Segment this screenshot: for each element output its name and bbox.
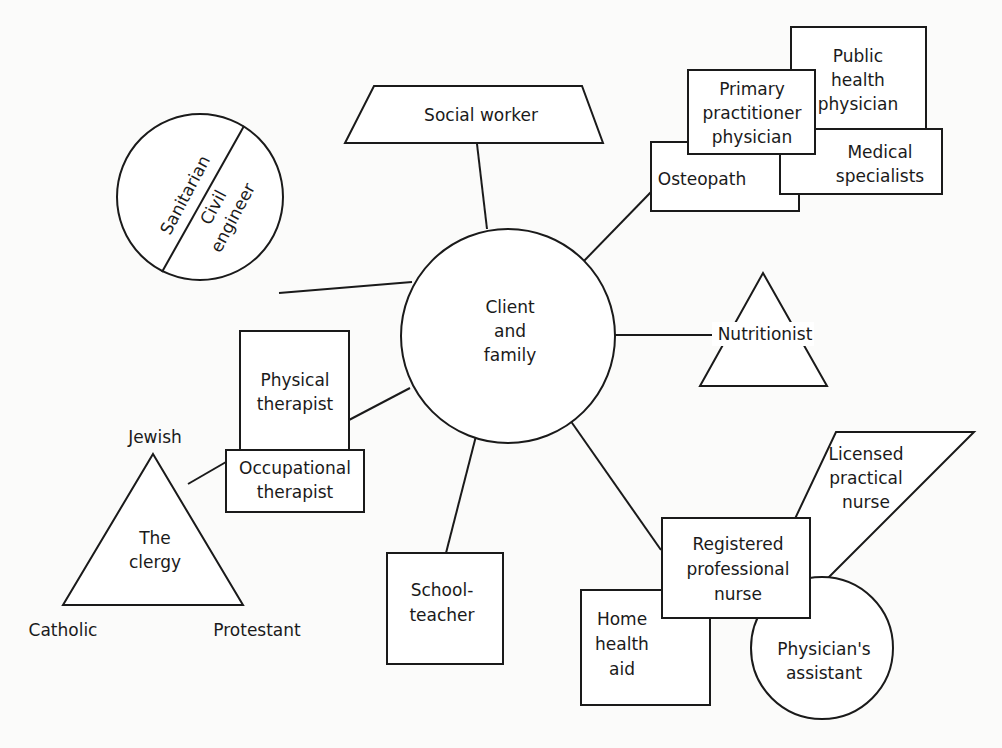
label-licensed: Licensed	[829, 444, 904, 464]
physical-therapist-box	[240, 331, 349, 450]
label-physicians: Physician's	[777, 639, 871, 659]
label-social-worker: Social worker	[424, 105, 538, 125]
label-physical: Physical	[260, 370, 329, 390]
label-medical: Medical	[847, 142, 912, 162]
therapist-group-node: Physical therapist Occupational therapis…	[226, 331, 364, 512]
label-health: health	[831, 70, 885, 90]
label-family: family	[484, 345, 536, 365]
connector-osteopath	[582, 192, 651, 263]
label-occupational: Occupational	[239, 458, 351, 478]
vertex-label-catholic: Catholic	[29, 620, 98, 640]
label-home: Home	[597, 609, 647, 629]
nutritionist-node: Nutritionist	[700, 273, 827, 386]
label-health-2: health	[595, 634, 649, 654]
label-and: and	[494, 321, 526, 341]
label-registered: Registered	[693, 534, 784, 554]
label-aid: aid	[609, 659, 635, 679]
label-assistant: assistant	[786, 663, 863, 683]
connector-physical-therapist	[349, 388, 410, 420]
vertex-label-protestant: Protestant	[213, 620, 301, 640]
connector-clergy	[188, 462, 226, 484]
connector-sanitarian	[279, 282, 412, 293]
label-nurse: nurse	[842, 492, 890, 512]
label-physician-2: physician	[712, 127, 792, 147]
label-therapist-2: therapist	[257, 482, 334, 502]
label-the: The	[138, 528, 171, 548]
sanitarian-civil-engineer-node: Sanitarian Civil engineer	[117, 114, 283, 280]
label-school: School-	[411, 580, 474, 600]
label-professional: professional	[686, 559, 789, 579]
client-and-family-node: Client and family	[401, 229, 615, 443]
schoolteacher-node: School- teacher	[387, 553, 503, 664]
label-nutritionist: Nutritionist	[718, 324, 813, 344]
label-clergy: clergy	[129, 552, 181, 572]
nursing-group-node: Licensed practical nurse Physician's ass…	[581, 432, 974, 719]
label-practitioner: practitioner	[703, 103, 802, 123]
label-public: Public	[833, 46, 883, 66]
care-team-diagram: Sanitarian Civil engineer Social worker …	[0, 0, 1002, 748]
label-teacher: teacher	[409, 605, 474, 625]
label-nurse-2: nurse	[714, 584, 762, 604]
label-therapist: therapist	[257, 394, 334, 414]
connector-schoolteacher	[446, 436, 476, 553]
social-worker-node: Social worker	[345, 86, 603, 143]
label-specialists: specialists	[836, 166, 925, 186]
label-osteopath: Osteopath	[658, 169, 746, 189]
vertex-label-jewish: Jewish	[127, 427, 182, 447]
label-client: Client	[485, 297, 535, 317]
split-circle-shape	[117, 114, 283, 280]
connector-social-worker	[477, 144, 487, 229]
label-physician: physician	[818, 94, 898, 114]
label-primary: Primary	[719, 79, 785, 99]
label-practical: practical	[829, 468, 902, 488]
physician-group-node: Public health physician Osteopath Medica…	[651, 27, 942, 211]
connector-registered-nurse	[570, 420, 661, 550]
